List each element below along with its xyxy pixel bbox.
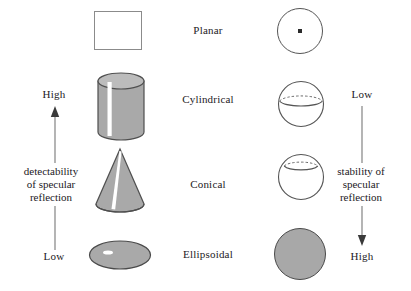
right-axis-top-label: Low: [322, 88, 402, 100]
row-label-planar: Planar: [148, 24, 268, 36]
row-label-cylindrical: Cylindrical: [148, 93, 268, 105]
left-axis-caption-line-2: of specular: [1, 178, 101, 191]
center-dot-icon: [298, 29, 302, 33]
planar-circle-shape: [277, 8, 323, 54]
right-axis-caption-line-1: stability of: [311, 165, 411, 178]
left-axis-caption-line-1: detectability: [1, 165, 101, 178]
left-axis-top-label: High: [14, 88, 94, 100]
planar-square-shape: [94, 11, 142, 50]
row-label-conical: Conical: [148, 178, 268, 190]
right-axis-bottom-label: High: [322, 250, 402, 262]
figure-canvas: High detectability of specular reflectio…: [0, 0, 411, 291]
filled-circle-shape: [274, 228, 326, 280]
cone-shape: [89, 146, 151, 216]
sphere-upper-band-shape: [277, 153, 325, 201]
right-axis-caption-line-2: specular: [311, 178, 411, 191]
right-axis-caption-line-3: reflection: [311, 191, 411, 204]
left-axis-bottom-label: Low: [14, 250, 94, 262]
ellipsoid-shape: [88, 238, 152, 272]
cylinder-shape: [94, 72, 148, 142]
left-axis-caption: detectability of specular reflection: [1, 163, 101, 206]
row-label-ellipsoidal: Ellipsoidal: [148, 248, 268, 260]
right-axis-caption: stability of specular reflection: [311, 163, 411, 206]
left-axis-caption-line-3: reflection: [1, 191, 101, 204]
sphere-equator-band-shape: [277, 80, 325, 128]
